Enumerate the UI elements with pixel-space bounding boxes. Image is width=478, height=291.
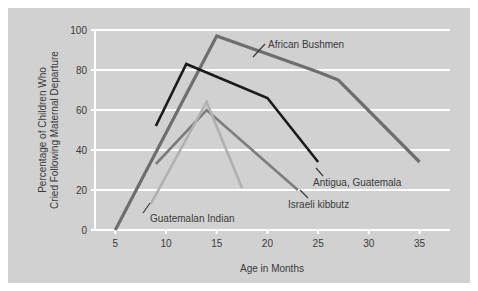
x-tick-label-35: 35 [414, 238, 426, 249]
plot-area [95, 30, 450, 230]
y-axis-title-line2: Cried Following Maternal Departure [49, 51, 60, 209]
series-label-african-bushmen: African Bushmen [268, 39, 344, 50]
x-axis-title: Age in Months [240, 263, 304, 274]
y-tick-label-20: 20 [76, 185, 88, 196]
x-tick-label-10: 10 [160, 238, 172, 249]
line-chart: 020406080100 5101520253035 Age in Months… [0, 0, 478, 291]
series-label-guatemalan-indian: Guatemalan Indian [150, 213, 235, 224]
x-tick-label-5: 5 [113, 238, 119, 249]
x-tick-label-20: 20 [262, 238, 274, 249]
y-tick-label-60: 60 [76, 105, 88, 116]
chart-figure: 020406080100 5101520253035 Age in Months… [0, 0, 478, 291]
series-label-antigua-guatemala: Antigua, Guatemala [313, 177, 402, 188]
series-label-israeli-kibbutz: Israeli kibbutz [288, 199, 349, 210]
y-axis-tick-labels: 020406080100 [70, 25, 87, 236]
y-tick-label-80: 80 [76, 65, 88, 76]
x-tick-label-15: 15 [211, 238, 223, 249]
y-tick-label-40: 40 [76, 145, 88, 156]
x-tick-label-25: 25 [313, 238, 325, 249]
x-axis-tick-labels: 5101520253035 [113, 238, 426, 249]
y-tick-label-100: 100 [70, 25, 87, 36]
x-tick-label-30: 30 [363, 238, 375, 249]
y-axis-title-line1: Percentage of Children Who [37, 67, 48, 193]
y-tick-label-0: 0 [81, 225, 87, 236]
